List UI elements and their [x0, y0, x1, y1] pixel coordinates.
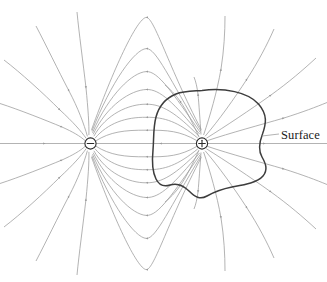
field-lines-canvas	[0, 0, 327, 282]
surface-label: Surface	[281, 128, 320, 143]
fieldline-out-ru4	[204, 16, 225, 135]
field-diagram-figure: Surface	[0, 0, 327, 282]
fieldline-in-ld2	[4, 149, 86, 227]
fieldline-out-rd3	[205, 151, 274, 258]
fieldline-up-1	[96, 130, 197, 141]
fieldline-group-outer-left	[0, 12, 89, 275]
fieldline-out-ru2	[206, 58, 316, 138]
negative-charge-marker	[85, 138, 96, 149]
surface-label-leader-line	[262, 134, 279, 136]
fieldline-ret-d1	[165, 150, 199, 202]
fieldline-group-inner	[92, 17, 202, 269]
fieldline-down-3	[94, 151, 199, 183]
fieldline-in-ld4	[77, 152, 89, 275]
fieldline-out-ru3	[205, 29, 274, 136]
fieldline-out-rd4	[204, 152, 225, 271]
fieldline-in-lu2	[4, 60, 86, 138]
positive-charge-marker	[196, 138, 207, 149]
fieldline-in-lu4	[77, 12, 89, 135]
fieldline-out-rd1	[207, 146, 327, 184]
fieldline-up-3	[94, 104, 199, 136]
fieldline-down-7	[92, 157, 202, 270]
fieldline-group-outer-right	[204, 16, 327, 271]
fieldline-down-1	[96, 146, 197, 157]
fieldline-up-7	[92, 17, 202, 130]
